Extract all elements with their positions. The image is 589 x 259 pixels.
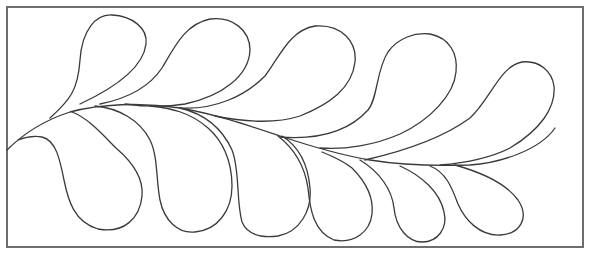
bottom-feather-2 [95,106,232,232]
top-feather-2 [100,19,250,107]
top-feather-4 [280,34,456,149]
top-feather-1 [50,15,146,118]
top-feather-3 [180,26,355,121]
bottom-feather-4 [278,136,372,241]
top-feather-5 [365,62,554,165]
bottom-feather-5 [360,160,445,242]
bottom-feather-1 [18,112,142,230]
spine [7,105,555,166]
feather-motif-drawing [0,0,589,259]
bottom-feather-3 [180,108,310,237]
border-frame [7,7,583,247]
